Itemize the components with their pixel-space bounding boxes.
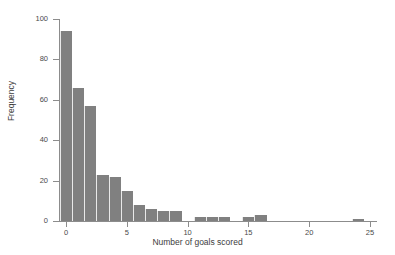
x-tick-label: 25	[355, 229, 385, 237]
y-tick-mark	[53, 140, 59, 141]
x-tick-label: 10	[173, 229, 203, 237]
histogram-figure: 020406080100 0510152025 Number of goals …	[0, 0, 395, 255]
histogram-bar	[218, 217, 230, 221]
histogram-bar	[96, 175, 108, 221]
histogram-bar	[121, 191, 133, 221]
x-tick-mark	[248, 222, 249, 227]
x-tick-label: 5	[112, 229, 142, 237]
x-tick-mark	[188, 222, 189, 227]
y-tick-label: 0	[0, 217, 48, 225]
y-tick-mark	[53, 181, 59, 182]
x-tick-mark	[127, 222, 128, 227]
histogram-bar	[194, 217, 206, 221]
histogram-bar	[133, 205, 145, 221]
y-tick-mark	[53, 19, 59, 20]
y-tick-label: 100	[0, 15, 48, 23]
y-tick-label: 20	[0, 177, 48, 185]
histogram-bar	[60, 31, 72, 221]
x-tick-mark	[370, 222, 371, 227]
y-axis-title: Frequency	[6, 66, 16, 136]
histogram-bar	[84, 106, 96, 221]
histogram-bar	[145, 209, 157, 221]
x-axis-line	[59, 221, 377, 222]
y-tick-mark	[53, 221, 59, 222]
x-tick-label: 0	[51, 229, 81, 237]
histogram-bar	[206, 217, 218, 221]
histogram-bar	[254, 215, 266, 221]
histogram-bar	[352, 219, 364, 221]
histogram-bar	[157, 211, 169, 221]
histogram-bar	[242, 217, 254, 221]
x-axis-title: Number of goals scored	[0, 237, 395, 247]
y-tick-mark	[53, 59, 59, 60]
x-tick-mark	[66, 222, 67, 227]
x-tick-mark	[309, 222, 310, 227]
histogram-bar	[169, 211, 181, 221]
histogram-bar	[72, 88, 84, 221]
y-tick-mark	[53, 100, 59, 101]
histogram-bar	[109, 177, 121, 221]
y-tick-label: 80	[0, 55, 48, 63]
x-tick-label: 20	[294, 229, 324, 237]
x-tick-label: 15	[233, 229, 263, 237]
y-tick-label: 40	[0, 136, 48, 144]
